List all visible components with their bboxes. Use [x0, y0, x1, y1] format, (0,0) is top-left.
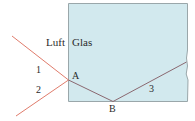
medium-label-air: Luft: [46, 37, 65, 48]
point-label-b: B: [109, 104, 116, 114]
medium-label-glass: Glas: [72, 37, 92, 48]
point-label-a: A: [72, 71, 79, 81]
diagram-canvas: [0, 0, 195, 121]
ray-label-1: 1: [36, 65, 41, 75]
glass-block: [69, 4, 189, 102]
ray-label-2: 2: [36, 85, 41, 95]
ray-label-3: 3: [149, 84, 154, 94]
refraction-diagram: Luft Glas A B 1 2 3: [0, 0, 195, 121]
ray-2: [16, 80, 69, 116]
